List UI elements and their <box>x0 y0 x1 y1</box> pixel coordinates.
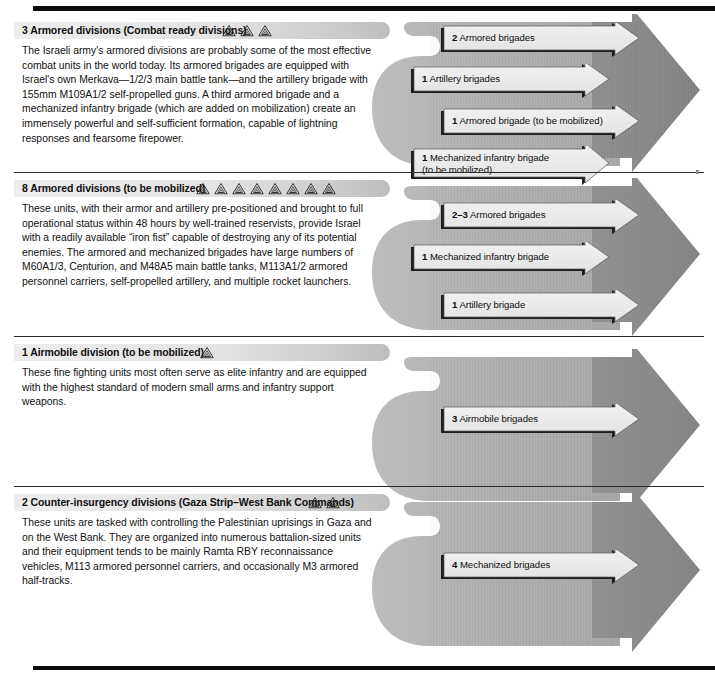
section-body-text: These units, with their armor and artill… <box>22 202 374 290</box>
division-symbol-group <box>200 345 214 360</box>
arrow-label: 2–3 Armored brigades <box>452 209 545 221</box>
arrow-text: Armored brigade (to be mobilized) <box>459 115 602 126</box>
division-xx-symbol <box>308 496 322 509</box>
division-symbol-group <box>222 23 272 38</box>
section-title: 2 Counter-insurgency divisions (Gaza Str… <box>22 494 354 511</box>
division-xx-symbol <box>196 182 210 195</box>
arrow-qty: 1 <box>452 299 457 310</box>
infographic-page: 3 Armored divisions (Combat ready divisi… <box>0 0 715 677</box>
arrow-text: Armored brigades <box>470 209 545 220</box>
bottom-rule <box>33 666 715 670</box>
division-xx-symbol <box>222 24 236 37</box>
brigade-arrow: 1 Artillery brigade <box>438 290 653 324</box>
arrow-label: 1 Artillery brigades <box>422 73 500 85</box>
brigade-arrow: 2 Armored brigades <box>438 23 653 57</box>
arrow-qty: 2 <box>452 32 457 43</box>
arrow-text: Artillery brigade <box>459 299 525 310</box>
division-xx-symbol <box>322 182 336 195</box>
arrow-qty: 2–3 <box>452 209 468 220</box>
arrow-label: 2 Armored brigades <box>452 32 535 44</box>
division-xx-symbol <box>250 182 264 195</box>
division-xx-symbol <box>326 496 340 509</box>
arrow-qty: 3 <box>452 413 457 424</box>
arrow-qty: 1 <box>422 251 427 262</box>
arrow-qty: 1 <box>422 73 427 84</box>
arrow-label: 1 Mechanized infantry brigade <box>422 251 549 263</box>
brigade-arrow: 1 Artillery brigades <box>408 64 623 98</box>
section-title: 8 Armored divisions (to be mobilized) <box>22 180 205 197</box>
division-symbol-group <box>196 181 336 196</box>
brigade-arrow: 2–3 Armored brigades <box>438 200 653 234</box>
arrow-label: 1 Artillery brigade <box>452 299 525 311</box>
division-xx-symbol <box>258 24 272 37</box>
arrow-text: Mechanized brigades <box>460 559 550 570</box>
arrow-text: Mechanized infantry brigade <box>430 251 549 262</box>
division-xx-symbol <box>268 182 282 195</box>
section-divider <box>14 172 704 173</box>
brigade-arrow: 3 Airmobile brigades <box>438 404 653 438</box>
division-xx-symbol <box>200 346 214 359</box>
section-body-text: These fine fighting units most often ser… <box>22 366 374 410</box>
brigade-arrow: 1 Armored brigade (to be mobilized) <box>438 106 653 140</box>
division-xx-symbol <box>304 182 318 195</box>
section-body-text: The Israeli army's armored divisions are… <box>22 44 374 146</box>
arrow-label: 1 Armored brigade (to be mobilized) <box>452 115 603 127</box>
division-symbol-group <box>308 495 340 510</box>
arrow-text: Artillery brigades <box>429 73 500 84</box>
brigade-arrow: 1 Mechanized infantry brigade <box>408 242 623 276</box>
arrow-qty: 1 <box>422 152 427 163</box>
section-body-text: These units are tasked with controlling … <box>22 516 374 589</box>
division-xx-symbol <box>286 182 300 195</box>
section-divider <box>14 336 704 337</box>
top-rule <box>33 6 715 11</box>
arrow-label: 4 Mechanized brigades <box>452 559 550 571</box>
arrow-qty: 4 <box>452 559 457 570</box>
section-divider <box>14 486 704 487</box>
cursor-artifact <box>696 170 699 174</box>
division-xx-symbol <box>232 182 246 195</box>
arrow-label: 3 Airmobile brigades <box>452 413 538 425</box>
arrow-qty: 1 <box>452 115 457 126</box>
arrow-text: Airmobile brigades <box>459 413 538 424</box>
section-title: 1 Airmobile division (to be mobilized) <box>22 344 204 361</box>
section-title: 3 Armored divisions (Combat ready divisi… <box>22 22 247 39</box>
division-xx-symbol <box>240 24 254 37</box>
brigade-arrow: 4 Mechanized brigades <box>438 550 653 584</box>
division-xx-symbol <box>214 182 228 195</box>
arrow-text: Armored brigades <box>459 32 534 43</box>
